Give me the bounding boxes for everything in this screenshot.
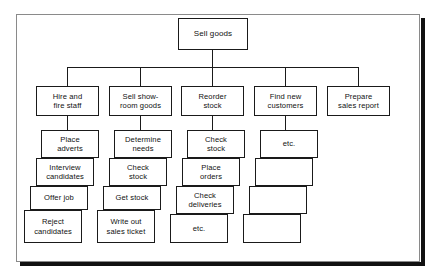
task-etc-col4[interactable]: etc.: [260, 130, 318, 158]
connector-bus-drop-3: [212, 67, 213, 86]
frame-shadow-right: [421, 18, 425, 266]
connector-bus-drop-4: [285, 67, 286, 86]
connector-col1-stub: [67, 116, 68, 130]
connector-col3-stub: [212, 116, 213, 130]
task-check-stock-col2[interactable]: Check stock: [109, 158, 167, 186]
task-write-out-sales-ticket[interactable]: Write out sales ticket: [97, 210, 155, 243]
task-interview-candidates[interactable]: Interview candidates: [36, 158, 94, 186]
node-find-new-customers[interactable]: Find new customers: [254, 86, 317, 116]
connector-bus-drop-5: [358, 67, 359, 86]
task-reject-candidates[interactable]: Reject candidates: [24, 210, 82, 243]
task-determine-needs[interactable]: Determine needs: [114, 130, 172, 158]
task-place-adverts[interactable]: Place adverts: [41, 130, 99, 158]
connector-root-drop: [212, 50, 213, 67]
frame-shadow-bottom: [20, 262, 425, 266]
task-check-deliveries[interactable]: Check deliveries: [176, 186, 234, 214]
task-place-orders[interactable]: Place orders: [182, 158, 240, 186]
connector-col2-stub: [140, 116, 141, 130]
task-offer-job[interactable]: Offer job: [30, 186, 88, 210]
node-reorder-stock[interactable]: Reorder stock: [181, 86, 244, 116]
connector-bus-drop-2: [140, 67, 141, 86]
connector-col4-stub: [285, 116, 286, 130]
task-etc-col3[interactable]: etc.: [170, 214, 228, 243]
task-get-stock[interactable]: Get stock: [103, 186, 161, 210]
task-blank-col4-3[interactable]: [243, 214, 301, 243]
task-blank-col4-2[interactable]: [249, 186, 307, 214]
task-blank-col4-1[interactable]: [255, 158, 313, 186]
task-check-stock-col3[interactable]: Check stock: [187, 130, 245, 158]
diagram-canvas: Sell goods Hire and fire staff Sell show…: [0, 0, 438, 280]
node-sell-showroom-goods[interactable]: Sell show- room goods: [109, 86, 172, 116]
node-hire-and-fire-staff[interactable]: Hire and fire staff: [36, 86, 99, 116]
node-root[interactable]: Sell goods: [178, 18, 248, 50]
node-prepare-sales-report[interactable]: Prepare sales report: [327, 86, 390, 116]
connector-bus-drop-1: [67, 67, 68, 86]
